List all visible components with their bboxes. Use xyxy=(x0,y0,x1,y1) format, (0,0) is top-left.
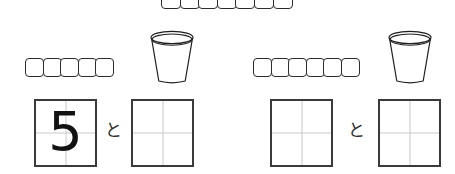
answer-box-a[interactable]: 5 xyxy=(34,99,97,167)
cube xyxy=(235,0,255,9)
cube xyxy=(95,58,114,77)
bucket-icon-left xyxy=(141,28,203,86)
cube xyxy=(323,58,342,77)
cube xyxy=(43,58,62,77)
worksheet-page: 5 と と xyxy=(0,0,455,174)
cube xyxy=(78,58,97,77)
answer-box-d[interactable] xyxy=(378,99,441,167)
answer-box-c[interactable] xyxy=(270,99,333,167)
cube xyxy=(253,58,272,77)
cube xyxy=(288,58,307,77)
guide-line-horizontal xyxy=(380,133,439,134)
bucket-icon-right xyxy=(379,28,441,86)
cube xyxy=(180,0,200,9)
cube xyxy=(25,58,44,77)
guide-line-horizontal xyxy=(272,133,331,134)
cube xyxy=(341,58,360,77)
cube-strip-left xyxy=(25,58,113,77)
cube xyxy=(271,58,290,77)
cube xyxy=(161,0,181,9)
cube xyxy=(217,0,237,9)
cube-strip-top xyxy=(161,0,291,9)
cube xyxy=(198,0,218,9)
cube xyxy=(273,0,293,9)
connector-kana-left: と xyxy=(105,122,122,139)
answer-value: 5 xyxy=(36,101,95,165)
cube xyxy=(306,58,325,77)
cube xyxy=(254,0,274,9)
cube-strip-right xyxy=(253,58,359,77)
cube xyxy=(60,58,79,77)
guide-line-horizontal xyxy=(133,133,192,134)
answer-box-b[interactable] xyxy=(131,99,194,167)
connector-kana-right: と xyxy=(348,122,365,139)
